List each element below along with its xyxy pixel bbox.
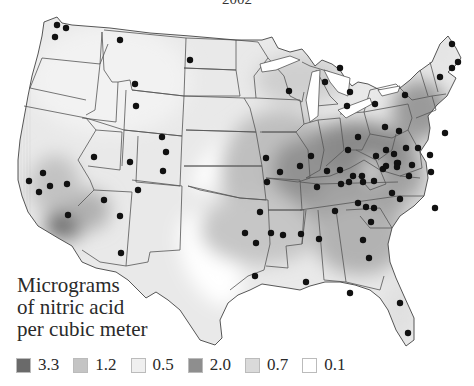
legend-label: 1.2 [95,355,116,375]
station-marker-icon [403,145,409,151]
station-marker-icon [427,152,433,158]
legend-item-2-0: 2.0 [188,355,231,375]
station-marker-icon [337,167,343,173]
station-marker-icon [160,168,166,174]
legend-swatch-icon [245,358,260,373]
station-marker-icon [382,124,388,130]
legend-item-3-3: 3.3 [16,355,59,375]
station-marker-icon [406,173,412,179]
station-marker-icon [366,255,372,261]
legend-swatch-icon [188,358,203,373]
station-marker-icon [359,173,365,179]
station-marker-icon [332,208,338,214]
station-marker-icon [187,57,193,63]
station-marker-icon [372,101,378,107]
station-marker-icon [117,213,123,219]
legend-title: Micrograms of nitric acid per cubic mete… [17,274,148,340]
station-marker-icon [396,128,402,134]
station-marker-icon [117,37,123,43]
station-marker-icon [303,279,309,285]
station-marker-icon [347,89,353,95]
station-marker-icon [389,190,395,196]
station-marker-icon [280,232,286,238]
station-marker-icon [355,200,361,206]
station-marker-icon [264,179,270,185]
station-marker-icon [54,22,60,28]
station-marker-icon [350,173,356,179]
legend-label: 0.7 [267,355,288,375]
station-marker-icon [345,147,351,153]
station-marker-icon [118,250,124,256]
station-marker-icon [437,74,443,80]
station-marker-icon [133,103,139,109]
station-marker-icon [455,59,461,65]
legend-title-line-3: per cubic meter [17,318,148,340]
station-marker-icon [449,65,455,71]
station-marker-icon [360,237,366,243]
station-marker-icon [324,168,330,174]
legend-swatch-icon [73,358,88,373]
legend-item-0-1: 0.1 [302,355,345,375]
legend: 3.3 1.2 0.5 2.0 0.7 0.1 [16,355,360,375]
station-marker-icon [242,230,248,236]
station-marker-icon [297,163,303,169]
station-marker-icon [355,134,361,140]
station-marker-icon [298,231,304,237]
station-marker-icon [40,170,46,176]
station-marker-icon [47,183,53,189]
station-marker-icon [253,240,259,246]
legend-item-1-2: 1.2 [73,355,116,375]
station-marker-icon [363,204,369,210]
station-marker-icon [337,65,343,71]
legend-label: 2.0 [210,355,231,375]
station-marker-icon [373,153,379,159]
station-marker-icon [277,169,283,175]
legend-label: 0.5 [153,355,174,375]
station-marker-icon [347,290,353,296]
station-marker-icon [402,92,408,98]
station-marker-icon [405,330,411,336]
station-marker-icon [286,88,292,94]
legend-label: 3.3 [38,355,59,375]
station-marker-icon [127,159,133,165]
legend-swatch-icon [302,358,317,373]
station-marker-icon [314,184,320,190]
station-marker-icon [163,149,169,155]
station-marker-icon [346,179,352,185]
legend-label: 0.1 [324,355,345,375]
station-marker-icon [257,209,263,215]
legend-swatch-icon [16,358,31,373]
station-marker-icon [394,164,400,170]
station-marker-icon [432,205,438,211]
station-marker-icon [449,41,455,47]
station-marker-icon [64,181,70,187]
station-marker-icon [360,179,366,185]
station-marker-icon [368,219,374,225]
legend-item-0-7: 0.7 [245,355,288,375]
station-marker-icon [159,134,165,140]
station-marker-icon [442,130,448,136]
legend-item-0-5: 0.5 [131,355,174,375]
station-marker-icon [397,300,403,306]
station-marker-icon [397,196,403,202]
station-marker-icon [391,151,397,157]
legend-swatch-icon [131,358,146,373]
station-marker-icon [428,169,434,175]
legend-title-line-2: of nitric acid [17,296,148,318]
station-marker-icon [316,236,322,242]
station-marker-icon [322,79,328,85]
station-marker-icon [135,187,141,193]
station-marker-icon [268,230,274,236]
station-marker-icon [36,189,42,195]
station-marker-icon [371,178,377,184]
station-marker-icon [371,205,377,211]
station-marker-icon [91,154,97,160]
station-marker-icon [383,147,389,153]
station-marker-icon [383,163,389,169]
station-marker-icon [344,103,350,109]
legend-title-line-1: Micrograms [17,274,148,296]
station-marker-icon [52,34,58,40]
station-marker-icon [263,155,269,161]
station-marker-icon [26,178,32,184]
station-marker-icon [338,181,344,187]
